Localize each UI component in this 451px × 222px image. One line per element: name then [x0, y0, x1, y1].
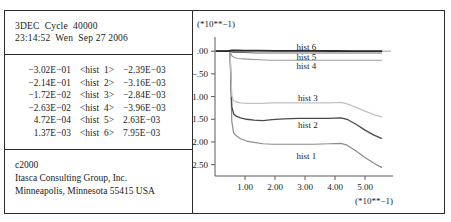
- hist-min-5: 4.72E−04: [17, 114, 71, 127]
- table-row: −3.02E−01 <hist 1> −2.39E−03: [17, 64, 175, 77]
- x-axis-tick-label: 5.00: [357, 182, 373, 192]
- series-label-hist-4: hist 4: [297, 61, 317, 71]
- x-axis-tick-label: 2.00: [267, 182, 283, 192]
- hist-max-1: −2.39E−03: [123, 64, 175, 77]
- hist-min-4: −2.63E−02: [17, 102, 71, 115]
- hist-min-value: −3.02E−01: [17, 64, 71, 77]
- hist-max-3: −2.84E−03: [123, 89, 175, 102]
- table-row: 4.72E−04 <hist 5> 2.63E−03: [17, 114, 175, 127]
- hist-name-5: <hist 5>: [71, 114, 123, 127]
- hist-value-table: −3.02E−01 <hist 1> −2.39E−03 −2.14E−01 <…: [17, 64, 175, 140]
- series-label-hist-6: hist 6: [297, 42, 317, 52]
- table-row: 1.37E−03 <hist 6> 7.95E−03: [17, 127, 175, 140]
- timestamp-line: 23:14:52 Wen Sep 27 2006: [15, 32, 182, 44]
- x-axis-tick-label: 4.00: [327, 182, 343, 192]
- address-line: Minneapolis, Minnesota 55415 USA: [15, 185, 182, 198]
- y-axis-tick-label: −1.50: [193, 114, 208, 124]
- series-label-hist-2: hist 2: [298, 120, 318, 130]
- x-axis-tick-label: 1.00: [237, 182, 253, 192]
- y-axis-exponent-label: (*10**−1): [197, 19, 235, 29]
- company-line: Itasca Consulting Group, Inc.: [15, 172, 182, 185]
- y-axis-tick-label: −.50: [193, 69, 208, 79]
- cycle-line: 3DEC Cycle 40000: [15, 20, 182, 32]
- table-row: −2.14E−01 <hist 2> −3.16E−03: [17, 77, 175, 90]
- history-line-chart: (*10**−1).00−.50−1.00−1.50−2.00−2.501.00…: [193, 11, 445, 213]
- x-axis-exponent-label: (*10**−1): [355, 196, 393, 206]
- hist-max-4: −3.96E−03: [123, 102, 175, 115]
- table-row: −2.63E−02 <hist 4> −3.96E−03: [17, 102, 175, 115]
- hist-min-3: −1.72E−02: [17, 89, 71, 102]
- hist-name-6: <hist 6>: [71, 127, 123, 140]
- hist-max-6: 7.95E−03: [123, 127, 175, 140]
- plot-window: 3DEC Cycle 40000 23:14:52 Wen Sep 27 200…: [4, 10, 445, 214]
- chart-panel: (*10**−1).00−.50−1.00−1.50−2.00−2.501.00…: [193, 11, 444, 213]
- hist-name-1: <hist 1>: [71, 64, 123, 77]
- cycle-header-section: 3DEC Cycle 40000 23:14:52 Wen Sep 27 200…: [5, 11, 192, 55]
- y-axis-tick-label: −2.00: [193, 137, 208, 147]
- table-row: −1.72E−02 <hist 3> −2.84E−03: [17, 89, 175, 102]
- hist-table-section: −3.02E−01 <hist 1> −2.39E−03 −2.14E−01 <…: [5, 55, 192, 150]
- vendor-footer-section: c2000 Itasca Consulting Group, Inc. Minn…: [5, 150, 192, 213]
- y-axis-tick-label: −1.00: [193, 92, 208, 102]
- hist-name-3: <hist 3>: [71, 89, 123, 102]
- hist-max-2: −3.16E−03: [123, 77, 175, 90]
- hist-min-2: −2.14E−01: [17, 77, 71, 90]
- hist-name-2: <hist 2>: [71, 77, 123, 90]
- info-panel: 3DEC Cycle 40000 23:14:52 Wen Sep 27 200…: [5, 11, 193, 213]
- hist-max-5: 2.63E−03: [123, 114, 175, 127]
- series-label-hist-1: hist 1: [297, 151, 317, 161]
- series-label-hist-3: hist 3: [298, 93, 318, 103]
- copyright-line: c2000: [15, 159, 182, 172]
- hist-name-4: <hist 4>: [71, 102, 123, 115]
- x-axis-tick-label: 3.00: [297, 182, 313, 192]
- hist-min-6: 1.37E−03: [17, 127, 71, 140]
- series-label-hist-5: hist 5: [297, 52, 317, 62]
- y-axis-tick-label: −2.50: [193, 160, 208, 170]
- y-axis-tick-label: .00: [197, 46, 209, 56]
- hist-min-1: −3.02E−01: [28, 65, 71, 75]
